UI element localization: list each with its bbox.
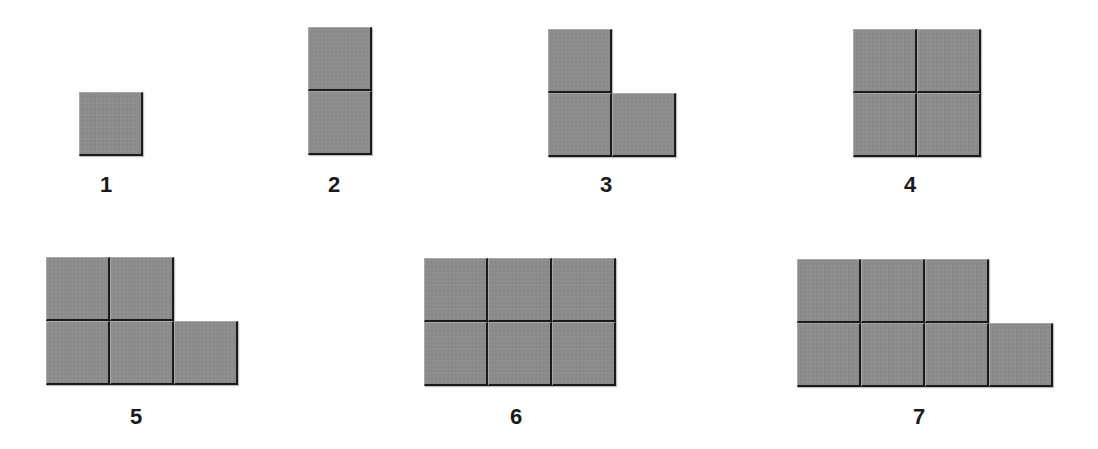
square-tile: [46, 257, 110, 321]
square-tile: [488, 258, 552, 322]
square-tile: [424, 322, 488, 386]
square-tile: [488, 322, 552, 386]
square-tile: [79, 92, 143, 156]
figure-2-label: 2: [314, 173, 354, 197]
square-tile: [925, 323, 989, 387]
square-tile: [989, 323, 1053, 387]
figure-7-label: 7: [899, 405, 939, 429]
square-tile: [424, 258, 488, 322]
square-tile: [917, 93, 981, 157]
square-tile: [46, 321, 110, 385]
figure-6-label: 6: [496, 405, 536, 429]
square-tile: [861, 259, 925, 323]
square-tile: [548, 93, 612, 157]
square-tile: [853, 93, 917, 157]
square-tile: [552, 322, 616, 386]
square-tile: [110, 257, 174, 321]
figure-3-label: 3: [586, 173, 626, 197]
figure-5-label: 5: [116, 405, 156, 429]
square-tile: [853, 29, 917, 93]
figure-4-label: 4: [890, 173, 930, 197]
square-tile: [797, 259, 861, 323]
square-tile: [174, 321, 238, 385]
figure-1-label: 1: [86, 173, 126, 197]
square-tile: [925, 259, 989, 323]
square-tile: [308, 27, 372, 91]
square-tile: [797, 323, 861, 387]
square-tile: [110, 321, 174, 385]
square-tile: [308, 91, 372, 155]
square-tile: [917, 29, 981, 93]
square-tile: [861, 323, 925, 387]
square-tile: [548, 29, 612, 93]
square-tile: [552, 258, 616, 322]
square-tile: [612, 93, 676, 157]
